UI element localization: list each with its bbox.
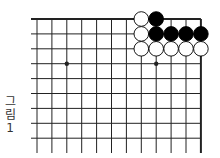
go-board-diagram [0,0,220,158]
black-stone [179,27,194,42]
white-stone [134,12,149,27]
white-stone [134,27,149,42]
black-stone [194,27,209,42]
caption-char: 1 [3,122,17,135]
black-stone [149,27,164,42]
black-stone [164,27,179,42]
white-stone [164,42,179,57]
white-stone [179,42,194,57]
star-point [154,62,158,66]
white-stone [194,42,209,57]
black-stone [149,12,164,27]
white-stone [149,42,164,57]
white-stone [134,42,149,57]
star-point [65,62,69,66]
figure-caption: 그 림 1 [3,96,17,135]
